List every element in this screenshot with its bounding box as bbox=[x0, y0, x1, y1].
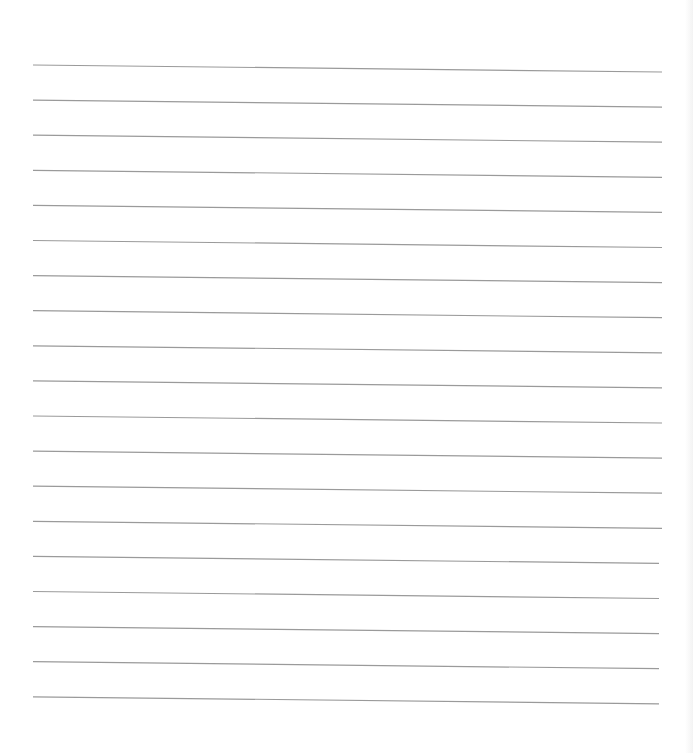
ruled-line bbox=[33, 135, 662, 142]
ruled-line bbox=[33, 100, 662, 107]
ruled-line bbox=[33, 346, 662, 353]
ruled-lines bbox=[0, 0, 693, 753]
ruled-line bbox=[33, 451, 662, 458]
ruled-line bbox=[33, 416, 662, 423]
ruled-line bbox=[33, 311, 662, 318]
ruled-line bbox=[33, 241, 662, 248]
ruled-line bbox=[33, 381, 662, 388]
ruled-line bbox=[33, 697, 659, 704]
ruled-line bbox=[33, 627, 659, 634]
ruled-line bbox=[33, 486, 662, 493]
ruled-line bbox=[33, 556, 659, 563]
ruled-line bbox=[33, 276, 662, 283]
ruled-line bbox=[33, 662, 659, 669]
page-edge-shadow bbox=[685, 0, 693, 753]
ruled-line bbox=[33, 521, 662, 528]
ruled-line bbox=[33, 170, 662, 177]
ruled-line bbox=[33, 592, 659, 599]
ruled-line bbox=[33, 65, 662, 72]
ruled-line bbox=[33, 205, 662, 212]
